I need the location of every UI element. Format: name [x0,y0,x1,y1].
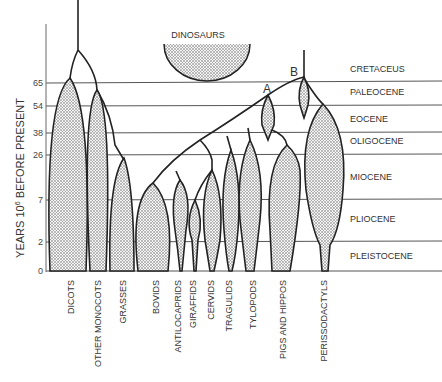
dinosaurs-shape [164,44,250,81]
y-tick-labels: 65 54 38 26 7 2 0 [33,78,43,276]
node-a-label: A [263,82,271,96]
epoch-labels: CRETACEUS PALEOCENE EOCENE OLIGOCENE MIO… [350,64,413,261]
dinosaurs-label: DINOSAURS [171,30,225,40]
tick-65: 65 [33,78,43,88]
taxon-tragulids: TRAGULIDS [224,280,234,332]
node-b-label: B [290,65,298,79]
tick-26: 26 [33,150,43,160]
tick-54: 54 [33,101,43,111]
tick-7: 7 [38,195,43,205]
epoch-pliocene: PLIOCENE [350,214,396,224]
epoch-eocene: EOCENE [350,114,388,124]
epoch-cretaceus: CRETACEUS [350,64,405,74]
taxon-other-monocots: OTHER MONOCOTS [93,280,103,367]
epoch-oligocene: OLIGOCENE [350,136,404,146]
taxon-grasses: GRASSES [118,280,128,324]
taxon-cervids: CERVIDS [206,280,216,320]
epoch-paleocene: PALEOCENE [350,87,404,97]
epoch-pleistocene: PLEISTOCENE [350,251,413,261]
taxon-perissodactyls: PERISSODACTYLS [319,280,329,362]
taxon-tylopods: TYLOPODS [248,280,258,329]
taxa-labels: DICOTS OTHER MONOCOTS GRASSES BOVIDS ANT… [66,280,329,367]
taxon-antilocaprids: ANTILOCAPRIDS [173,280,183,353]
lineages [49,0,344,271]
y-axis-title: YEARS 106 BEFORE PRESENT [14,98,26,258]
tick-0: 0 [38,266,43,276]
tick-2: 2 [38,237,43,247]
epoch-miocene: MIOCENE [350,172,392,182]
taxon-bovids: BOVIDS [151,280,161,314]
phylogeny-diagram: 65 54 38 26 7 2 0 YEARS 106 BEFORE PRESE… [0,0,442,382]
taxon-pigs-and-hippos: PIGS AND HIPPOS [278,280,288,359]
tick-38: 38 [33,128,43,138]
taxon-dicots: DICOTS [66,280,76,314]
taxon-giraffids: GIRAFFIDS [188,280,198,328]
